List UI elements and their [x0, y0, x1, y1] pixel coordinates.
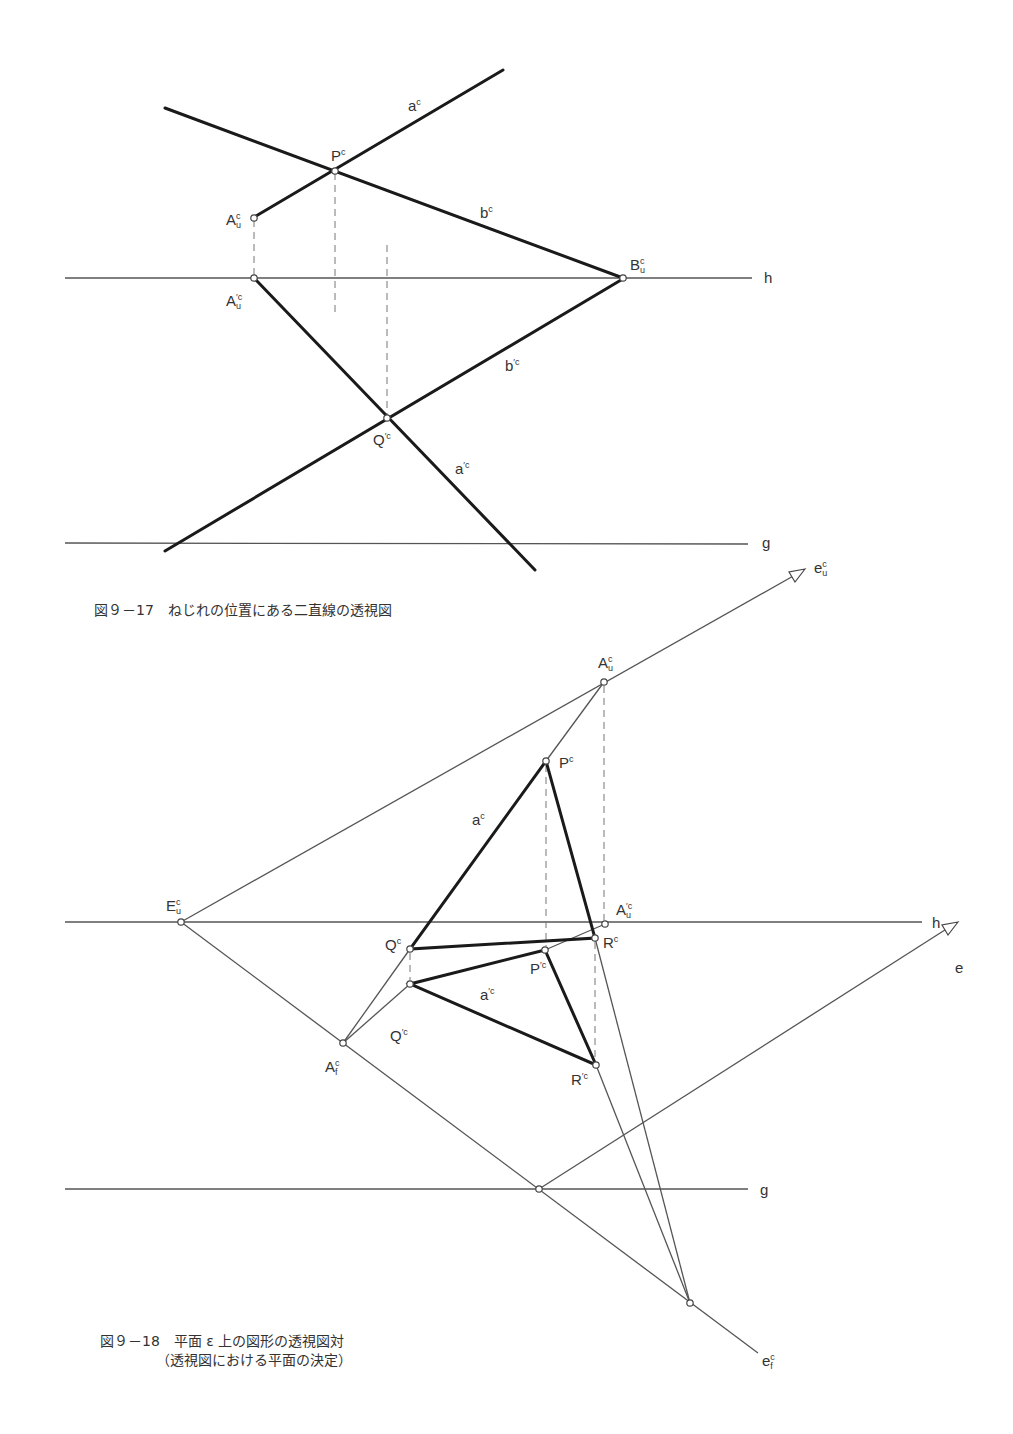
figure-9-17 — [65, 70, 752, 570]
label-g: g — [760, 1182, 768, 1197]
ground-line-g — [65, 543, 748, 544]
point-r — [592, 935, 598, 941]
label-af: Acf — [325, 1059, 342, 1074]
caption-line-2: （透視図における平面の決定） — [156, 1352, 352, 1368]
figure-caption-9-17: 図９－17 ねじれの位置にある二直線の透視図 — [94, 601, 392, 620]
label-au-prime: A′cu — [616, 902, 638, 917]
point-p-prime — [542, 947, 548, 953]
line-p-au — [546, 682, 604, 761]
line-ef — [181, 922, 758, 1353]
label-bu: Bcu — [630, 257, 647, 272]
arrow-e-icon — [942, 922, 958, 935]
point-q — [407, 946, 413, 952]
label-au-prime: A′cu — [226, 293, 248, 308]
point-p — [332, 168, 338, 174]
point-r-prime — [593, 1062, 599, 1068]
label-au: Acu — [598, 655, 615, 670]
label-r-prime: R′c — [571, 1072, 588, 1087]
arrow-eu-icon — [789, 569, 805, 582]
diagram-canvas — [0, 0, 1013, 1434]
point-vanishing — [687, 1300, 693, 1306]
point-q-prime — [407, 981, 413, 987]
label-a: ac — [472, 812, 485, 827]
point-au-prime — [602, 921, 608, 927]
label-a-prime: a′c — [480, 987, 495, 1002]
label-h: h — [932, 915, 940, 930]
label-ef: ecf — [762, 1353, 777, 1368]
label-a-prime: a′c — [455, 461, 470, 476]
line-a-prime — [256, 280, 535, 570]
label-p-prime: P′c — [530, 961, 546, 976]
label-q: Qc — [385, 937, 401, 952]
point-bu — [620, 275, 626, 281]
label-h: h — [764, 270, 772, 285]
label-q-prime: Q′c — [373, 432, 391, 447]
triangle-pqr — [410, 761, 595, 949]
label-g: g — [762, 535, 770, 550]
point-au — [251, 215, 257, 221]
line-eu — [181, 575, 795, 922]
figure-9-18 — [65, 569, 958, 1353]
label-au: Acu — [226, 212, 243, 227]
point-e-on-g — [536, 1186, 542, 1192]
point-au — [601, 679, 607, 685]
point-au-prime — [251, 275, 257, 281]
label-b-prime: b′c — [505, 358, 520, 373]
label-b: bc — [480, 205, 493, 220]
point-eu — [178, 919, 184, 925]
label-r: Rc — [603, 935, 618, 950]
label-p: Pc — [559, 755, 574, 770]
label-q-prime: Q′c — [390, 1028, 408, 1043]
label-e: e — [955, 960, 963, 975]
label-p: Pc — [331, 148, 346, 163]
point-p — [543, 758, 549, 764]
caption-line-1: 図９－18 平面 ε 上の図形の透視図対 — [100, 1333, 344, 1349]
point-af — [340, 1040, 346, 1046]
label-eu: ecu — [814, 560, 829, 575]
triangle-pqr-prime — [410, 950, 596, 1065]
label-eu-point: Ecu — [166, 898, 183, 913]
line-a — [256, 70, 503, 216]
label-a: ac — [408, 98, 421, 113]
line-e — [539, 928, 948, 1189]
line-b-prime — [165, 280, 621, 551]
point-q-prime — [384, 415, 390, 421]
figure-caption-9-18: 図９－18 平面 ε 上の図形の透視図対（透視図における平面の決定） — [100, 1332, 352, 1370]
line-r-to-vp — [595, 938, 690, 1303]
